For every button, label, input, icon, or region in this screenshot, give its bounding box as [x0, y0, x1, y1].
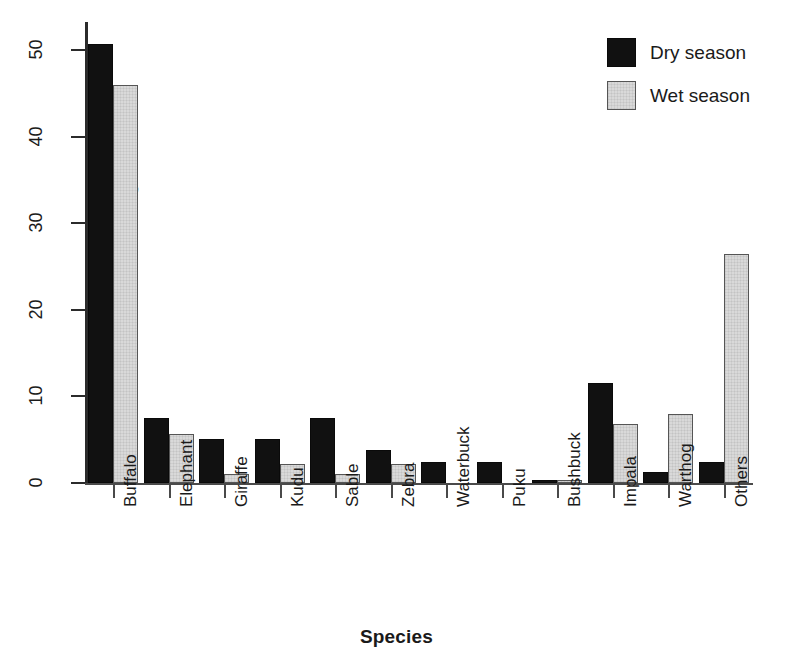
light-gray-square-swatch [607, 81, 636, 110]
x-axis-tick [502, 485, 504, 498]
x-axis-tick-label: Waterbuck [454, 426, 474, 507]
y-axis-tick [71, 136, 85, 138]
x-axis-tick [224, 485, 226, 498]
y-axis-tick-label: 50 [26, 20, 47, 80]
legend-item: Wet season [607, 81, 750, 110]
x-axis-tick [113, 485, 115, 498]
x-axis-tick-label: Sable [343, 464, 363, 507]
y-axis-tick [71, 395, 85, 397]
x-axis-tick-label: Zebra [399, 463, 419, 507]
y-axis-tick-label: 20 [26, 279, 47, 339]
bar-wet-season [724, 254, 749, 483]
y-axis-tick-label: 10 [26, 366, 47, 426]
y-axis-tick [71, 49, 85, 51]
bar-dry-season [88, 44, 113, 483]
bar-dry-season [421, 462, 446, 483]
y-axis-tick [71, 482, 85, 484]
x-axis-tick-label: Elephant [177, 440, 197, 507]
y-axis-tick [71, 222, 85, 224]
bar-dry-season [588, 383, 613, 483]
x-axis-tick-label: Warthog [676, 443, 696, 507]
bar-dry-season [366, 450, 391, 483]
bar-wet-season [113, 85, 138, 483]
x-axis-tick [724, 485, 726, 498]
chart-legend: Dry seasonWet season [607, 38, 750, 124]
legend-item-label: Dry season [650, 42, 746, 64]
legend-item: Dry season [607, 38, 750, 67]
x-axis-tick [557, 485, 559, 498]
x-axis-tick [280, 485, 282, 498]
x-axis-tick-label: Giraffe [232, 456, 252, 507]
bar-dry-season [643, 472, 668, 483]
x-axis-tick [169, 485, 171, 498]
bar-dry-season [144, 418, 169, 483]
x-axis-tick [391, 485, 393, 498]
x-axis-tick-label: Impala [621, 456, 641, 507]
legend-item-label: Wet season [650, 85, 750, 107]
y-axis-tick-label: 30 [26, 193, 47, 253]
x-axis-tick [446, 485, 448, 498]
bar-dry-season [477, 462, 502, 483]
x-axis-tick-label: Puku [510, 468, 530, 507]
bar-dry-season [199, 439, 224, 483]
x-axis-tick-label: Bushbuck [565, 432, 585, 507]
x-axis-tick [668, 485, 670, 498]
bar-chart-figure: Percentage of kills 01020304050 BuffaloE… [0, 0, 793, 668]
x-axis-tick-label: Buffalo [121, 454, 141, 507]
black-square-swatch [607, 38, 636, 67]
y-axis-tick-label: 40 [26, 106, 47, 166]
x-axis-tick [613, 485, 615, 498]
y-axis-tick [71, 309, 85, 311]
x-axis-tick-label: Others [732, 456, 752, 507]
bar-dry-season [310, 418, 335, 483]
bar-dry-season [255, 439, 280, 483]
x-axis-title: Species [0, 626, 793, 648]
x-axis-tick [335, 485, 337, 498]
x-axis-tick-label: Kudu [288, 467, 308, 507]
y-axis-tick-label: 0 [26, 453, 47, 513]
bar-dry-season [699, 462, 724, 483]
